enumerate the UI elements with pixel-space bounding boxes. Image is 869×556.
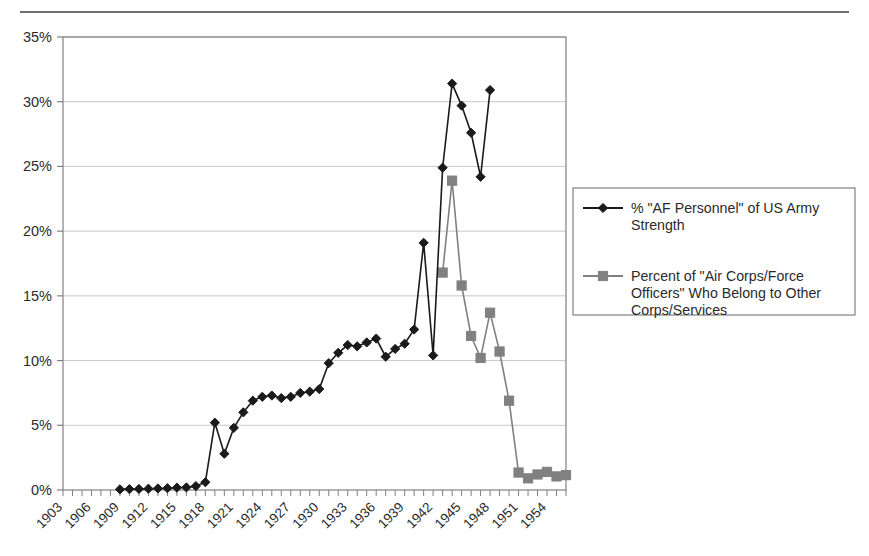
x-tick-label: 1951 [489,500,521,532]
data-point-marker [201,478,210,487]
data-point-marker [504,396,513,405]
x-tick-label: 1921 [204,500,236,532]
x-tick-label: 1915 [147,500,179,532]
x-tick-label: 1933 [318,500,350,532]
data-point-marker [495,347,504,356]
data-point-marker [429,351,438,360]
data-point-marker [448,79,457,88]
data-point-marker [542,467,551,476]
data-point-marker [182,483,191,492]
data-point-marker [296,388,305,397]
data-point-marker [485,308,494,317]
data-point-marker [315,384,324,393]
legend-label: Strength [631,217,685,233]
x-tick-label: 1903 [33,500,65,532]
x-tick-label: 1927 [261,500,293,532]
y-tick-label: 20% [23,223,52,239]
x-tick-label: 1954 [517,499,549,531]
data-point-marker [277,394,286,403]
x-tick-label: 1936 [346,500,378,532]
data-point-marker [305,387,314,396]
y-tick-label: 0% [31,482,52,498]
y-tick-label: 15% [23,288,52,304]
data-point-marker [438,163,447,172]
y-axis-tick-labels: 0%5%10%15%20%25%30%35% [23,29,52,498]
series-line [443,181,566,479]
data-point-marker [419,238,428,247]
x-tick-label: 1918 [176,500,208,532]
data-point-marker [523,474,532,483]
x-tick-label: 1942 [403,500,435,532]
data-point-marker [485,85,494,94]
x-tick-label: 1939 [375,500,407,532]
y-tick-label: 30% [23,94,52,110]
chart-figure: 0%5%10%15%20%25%30%35% 19031906190919121… [0,0,869,556]
data-point-marker [533,470,542,479]
data-point-marker [134,484,143,493]
x-axis-tick-labels: 1903190619091912191519181921192419271930… [33,499,549,531]
data-point-marker [466,128,475,137]
data-series [115,79,494,494]
data-point-marker [561,471,570,480]
x-tick-label: 1924 [233,499,265,531]
data-point-marker [362,338,371,347]
y-tick-label: 5% [31,417,52,433]
y-axis-ticks [57,37,63,490]
data-point-marker [476,353,485,362]
data-point-marker [552,472,561,481]
data-point-marker [476,172,485,181]
x-tick-label: 1945 [432,500,464,532]
chart-legend: % "AF Personnel" of US ArmyStrengthPerce… [573,188,855,318]
x-tick-label: 1906 [62,500,94,532]
data-point-marker [210,418,219,427]
data-point-marker [457,101,466,110]
data-point-marker [353,342,362,351]
legend-label: % "AF Personnel" of US Army [631,200,820,216]
series-line [120,84,490,490]
legend-label: Percent of "Air Corps/Force [631,268,804,284]
data-point-marker [372,334,381,343]
legend-label: Officers" Who Belong to Other [631,285,821,301]
data-point-marker [514,468,523,477]
data-point-marker [125,484,134,493]
header-divider [20,11,849,13]
data-point-marker [258,392,267,401]
data-point-marker [163,484,172,493]
data-series-layer [115,79,570,494]
data-point-marker [220,449,229,458]
data-point-marker [172,483,181,492]
gridlines-group [63,37,566,425]
legend-label: Corps/Services [631,302,727,318]
plot-area-border [63,37,566,490]
data-point-marker [229,423,238,432]
data-point-marker [438,268,447,277]
data-point-marker [267,391,276,400]
data-point-marker [400,339,409,348]
plot-border [63,37,566,490]
x-tick-label: 1909 [90,500,122,532]
line-chart: 0%5%10%15%20%25%30%35% 19031906190919121… [0,0,869,556]
x-tick-label: 1948 [460,500,492,532]
data-point-marker [448,176,457,185]
data-point-marker [153,484,162,493]
data-point-marker [144,484,153,493]
data-series [438,176,571,483]
y-tick-label: 25% [23,158,52,174]
x-tick-label: 1912 [119,500,151,532]
data-point-marker [598,271,607,280]
data-point-marker [191,482,200,491]
y-tick-label: 10% [23,353,52,369]
data-point-marker [115,485,124,494]
x-tick-label: 1930 [290,500,322,532]
data-point-marker [410,325,419,334]
data-point-marker [286,392,295,401]
y-tick-label: 35% [23,29,52,45]
data-point-marker [457,281,466,290]
data-point-marker [466,331,475,340]
